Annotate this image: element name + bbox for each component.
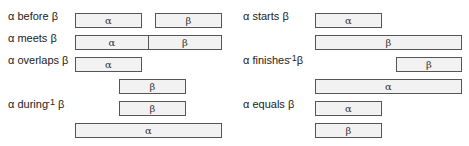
label-overlaps: α overlaps β bbox=[8, 54, 68, 67]
label-text: α meets bbox=[8, 32, 50, 44]
interval-bar-beta: β bbox=[119, 79, 186, 94]
interval-bar-beta: β bbox=[315, 123, 382, 138]
interval-bar-alpha: α bbox=[75, 13, 142, 28]
label-finishes-inverse: α finishes-1β bbox=[243, 54, 303, 68]
inverse-superscript: -1 bbox=[47, 97, 55, 107]
label-before: α before β bbox=[8, 10, 58, 23]
interval-bar-beta: β bbox=[315, 35, 462, 50]
bar-label: β bbox=[186, 15, 192, 26]
label-text: β bbox=[62, 54, 68, 66]
bar-label: α bbox=[145, 125, 152, 136]
bar-label: β bbox=[426, 59, 432, 70]
label-text: α equals bbox=[243, 98, 288, 110]
interval-bar-alpha: α bbox=[75, 57, 142, 72]
label-text: α starts bbox=[243, 10, 282, 22]
bar-label: β bbox=[182, 37, 188, 48]
label-meets: α meets β bbox=[8, 32, 57, 45]
bar-label: β bbox=[150, 81, 156, 92]
bar-label: α bbox=[105, 15, 112, 26]
bar-label: β bbox=[386, 37, 392, 48]
interval-bar-beta: β bbox=[396, 57, 462, 72]
interval-bar-beta: β bbox=[155, 13, 222, 28]
label-starts: α starts β bbox=[243, 10, 289, 23]
label-text: β bbox=[288, 98, 294, 110]
bar-label: α bbox=[345, 15, 352, 26]
bar-label: α bbox=[105, 59, 112, 70]
label-text: α during bbox=[8, 98, 48, 110]
label-text: β bbox=[297, 54, 303, 66]
label-text: β bbox=[282, 10, 288, 22]
label-text: β bbox=[52, 10, 58, 22]
interval-bar-alpha: α bbox=[315, 101, 382, 116]
bar-label: α bbox=[385, 81, 392, 92]
label-during-inverse: α during-1 β bbox=[8, 98, 64, 112]
label-text: α before bbox=[8, 10, 52, 22]
bar-label: β bbox=[346, 125, 352, 136]
label-text: β bbox=[50, 32, 56, 44]
label-text: α finishes bbox=[243, 54, 290, 66]
interval-bar-meets: α β bbox=[75, 35, 222, 50]
label-equals: α equals β bbox=[243, 98, 294, 111]
bar-label: α bbox=[109, 37, 116, 48]
interval-bar-alpha: α bbox=[315, 79, 462, 94]
label-text: α overlaps bbox=[8, 54, 62, 66]
label-text: β bbox=[55, 98, 64, 110]
inverse-superscript: -1 bbox=[289, 53, 297, 63]
interval-segment-beta: β bbox=[148, 36, 221, 49]
interval-bar-alpha: α bbox=[75, 123, 222, 138]
bar-label: β bbox=[150, 103, 156, 114]
interval-bar-alpha: α bbox=[315, 13, 382, 28]
interval-segment-alpha: α bbox=[76, 36, 148, 49]
bar-label: α bbox=[345, 103, 352, 114]
interval-bar-beta: β bbox=[119, 101, 186, 116]
